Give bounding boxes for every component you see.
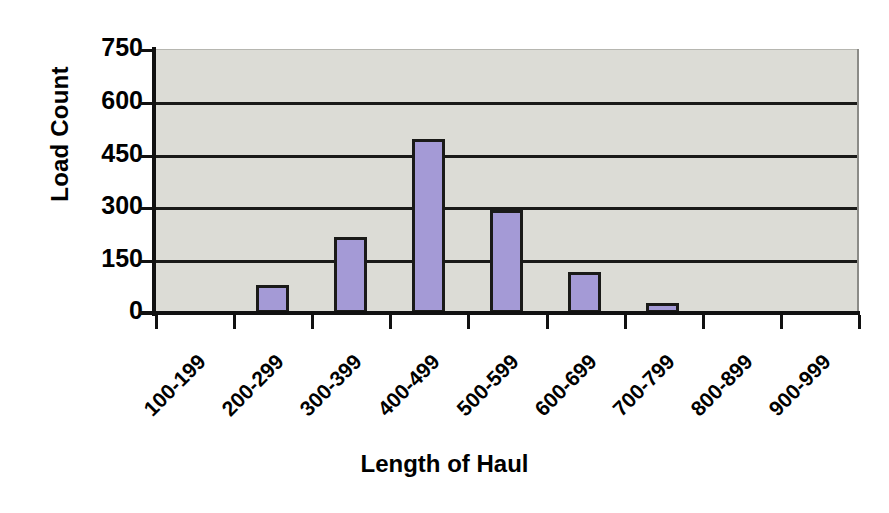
x-axis-tick-labels: 100-199200-299300-399400-499500-599600-6… [0, 0, 889, 513]
bar-chart: Load Count 750 600 450 300 150 0 100-199… [0, 0, 889, 513]
x-axis-title: Length of Haul [0, 450, 889, 478]
